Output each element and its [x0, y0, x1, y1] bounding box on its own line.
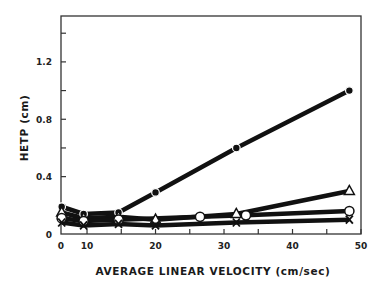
y-tick-label: 1.2 [36, 57, 52, 67]
plot-frame [61, 16, 361, 234]
y-axis-title: HETP (cm) [18, 95, 30, 162]
filled-circle-marker-icon [346, 87, 354, 95]
filled-circle-marker-icon [152, 189, 160, 197]
filled-circle-marker-icon [233, 144, 241, 152]
open-circle-marker-icon [195, 212, 204, 221]
x-tick-label: 10 [81, 241, 94, 251]
x-tick-label: 0 [58, 241, 64, 251]
open-circle-marker-icon [345, 206, 354, 215]
x-axis-ticks: 01020304050 [58, 229, 367, 251]
open-circle-marker-icon [241, 211, 250, 220]
y-tick-label: 0.4 [36, 172, 52, 182]
series-lines [62, 91, 350, 226]
y-tick-label: 0 [46, 230, 52, 240]
x-tick-label: 40 [286, 241, 299, 251]
x-tick-label: 50 [355, 241, 368, 251]
x-axis-title: AVERAGE LINEAR VELOCITY (cm/sec) [96, 265, 331, 277]
series-markers [57, 87, 355, 230]
series-line-filled-circle [62, 91, 350, 214]
y-tick-label: 0.8 [36, 115, 52, 125]
hetp-chart: 01020304050 00.40.81.2 AVERAGE LINEAR VE… [0, 0, 385, 287]
x-tick-label: 30 [218, 241, 231, 251]
x-tick-label: 20 [149, 241, 162, 251]
